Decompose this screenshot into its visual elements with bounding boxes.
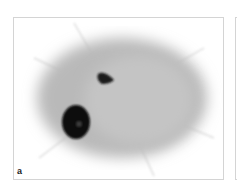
- panel-label: a: [17, 166, 22, 176]
- scintigraphy-image: [14, 18, 223, 179]
- figure-panel-a: a: [13, 17, 224, 180]
- hotspot-large: [62, 105, 90, 139]
- figure-panel-b-edge: [235, 17, 237, 180]
